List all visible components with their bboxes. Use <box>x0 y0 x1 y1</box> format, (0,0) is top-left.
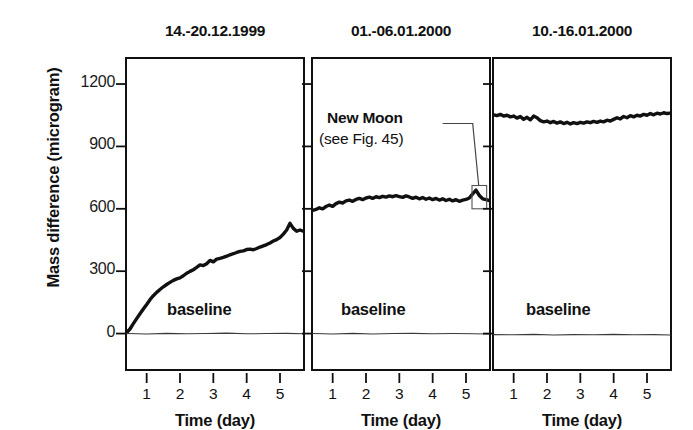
x-axis-tick-label: 2 <box>356 385 376 403</box>
x-axis-tick-label: 5 <box>270 385 290 403</box>
chart-panel-3: 10.-16.01.2000baseline12345Time (day) <box>492 57 672 371</box>
x-axis-tick-label: 4 <box>423 385 443 403</box>
baseline-series <box>494 334 671 335</box>
x-axis-tick-label: 2 <box>537 385 557 403</box>
x-axis-tick-label: 4 <box>604 385 624 403</box>
baseline-series <box>127 333 304 334</box>
x-axis-title: Time (day) <box>542 411 622 430</box>
x-axis-tick-label: 1 <box>504 385 524 403</box>
x-axis-title: Time (day) <box>361 411 441 430</box>
baseline-label: baseline <box>341 300 405 319</box>
mass-difference-series <box>494 113 671 124</box>
y-axis-tick-label: 300 <box>5 260 115 278</box>
x-axis-tick-label: 5 <box>637 385 657 403</box>
baseline-label: baseline <box>526 300 590 319</box>
x-axis-tick-label: 3 <box>203 385 223 403</box>
panel-title: 14.-20.12.1999 <box>165 22 265 40</box>
panel-title: 01.-06.01.2000 <box>351 22 451 40</box>
panel-title: 10.-16.01.2000 <box>532 22 632 40</box>
plot-canvas <box>472 57 692 411</box>
y-axis-tick-label: 600 <box>5 198 115 216</box>
baseline-label: baseline <box>167 300 231 319</box>
new-moon-annotation-subtitle: (see Fig. 45) <box>319 130 403 148</box>
x-axis-title: Time (day) <box>175 411 255 430</box>
y-axis-tick-label: 0 <box>5 323 115 341</box>
x-axis-tick-label: 1 <box>137 385 157 403</box>
chart-panel-2: 01.-06.01.2000baselineNew Moon(see Fig. … <box>311 57 491 371</box>
x-axis-tick-label: 1 <box>323 385 343 403</box>
y-axis-tick-label: 900 <box>5 135 115 153</box>
x-axis-tick-label: 3 <box>570 385 590 403</box>
mass-difference-series <box>313 190 490 210</box>
baseline-series <box>313 333 490 334</box>
y-axis-tick-label: 1200 <box>5 73 115 91</box>
x-axis-tick-label: 4 <box>237 385 257 403</box>
chart-panel-1: 14.-20.12.1999baseline12345Time (day) <box>125 57 305 371</box>
x-axis-tick-label: 3 <box>389 385 409 403</box>
new-moon-annotation-title: New Moon <box>327 109 403 127</box>
x-axis-tick-label: 2 <box>170 385 190 403</box>
